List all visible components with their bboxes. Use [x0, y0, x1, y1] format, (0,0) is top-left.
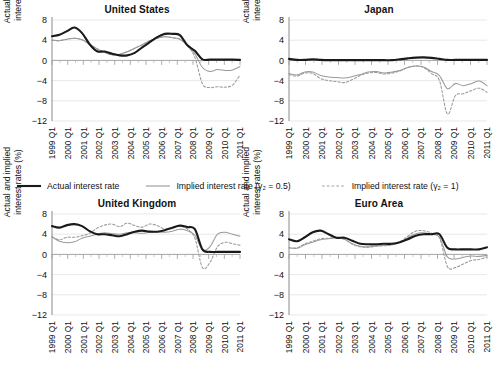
x-tick-label: 2008 Q1 — [188, 321, 198, 353]
x-tick-label: 2009 Q1 — [204, 127, 214, 159]
x-tick-label: 2004 Q1 — [367, 127, 377, 159]
legend-label: Actual interest rate — [47, 181, 119, 191]
series-line — [52, 224, 240, 252]
x-tick-label: 2009 Q1 — [449, 321, 459, 353]
x-tick-label: 2007 Q1 — [173, 127, 183, 159]
x-tick-label: 2010 Q1 — [220, 127, 230, 159]
y-tick-label: 0 — [279, 250, 284, 260]
y-tick-label: 8 — [42, 209, 47, 219]
panel-united-states: United States Actual and implied interes… — [0, 0, 246, 172]
x-tick-label: 2005 Q1 — [141, 127, 151, 159]
legend-swatch-solid-gray — [145, 182, 171, 190]
x-tick-label: 2010 Q1 — [220, 321, 230, 353]
y-tick-label: −4 — [37, 270, 47, 280]
x-tick-label: 2007 Q1 — [173, 321, 183, 353]
x-tick-label: 2005 Q1 — [383, 321, 393, 353]
x-tick-label: 2003 Q1 — [110, 321, 120, 353]
y-tick-label: 8 — [42, 15, 47, 25]
y-tick-label: 8 — [279, 15, 284, 25]
x-tick-label: 2003 Q1 — [350, 127, 360, 159]
legend-label: Implied interest rate (γ₂ = 1) — [352, 181, 459, 191]
y-tick-label: 0 — [279, 56, 284, 66]
x-tick-label: 2002 Q1 — [334, 127, 344, 159]
x-tick-label: 2000 Q1 — [301, 127, 311, 159]
y-tick-label: −12 — [32, 310, 47, 320]
x-tick-label: 2000 Q1 — [63, 127, 73, 159]
series-line — [52, 28, 240, 61]
x-tick-label: 2010 Q1 — [466, 321, 476, 353]
y-tick-label: −4 — [274, 76, 284, 86]
legend-item-actual: Actual interest rate — [16, 181, 119, 191]
x-tick-label: 2008 Q1 — [188, 127, 198, 159]
plot-united-states: 840−4−8−121999 Q12000 Q12001 Q12002 Q120… — [0, 0, 246, 172]
x-tick-label: 2008 Q1 — [433, 321, 443, 353]
y-tick-label: 4 — [42, 229, 47, 239]
x-tick-label: 2004 Q1 — [367, 321, 377, 353]
x-tick-label: 2003 Q1 — [350, 321, 360, 353]
y-tick-label: 4 — [279, 35, 284, 45]
figure-panel-grid: United States Actual and implied interes… — [0, 0, 493, 366]
x-tick-label: 2001 Q1 — [79, 127, 89, 159]
x-tick-label: 2000 Q1 — [301, 321, 311, 353]
y-tick-label: 0 — [42, 56, 47, 66]
x-tick-label: 2003 Q1 — [110, 127, 120, 159]
y-tick-label: −12 — [269, 310, 284, 320]
y-tick-label: 4 — [279, 229, 284, 239]
y-tick-label: 8 — [279, 209, 284, 219]
x-tick-label: 1999 Q1 — [47, 127, 57, 159]
chart-legend: Actual interest rate Implied interest ra… — [0, 178, 493, 194]
legend-item-implied-half: Implied interest rate (γ₂ = 0.5) — [145, 181, 290, 191]
y-tick-label: −4 — [274, 270, 284, 280]
y-tick-label: −8 — [37, 96, 47, 106]
x-tick-label: 2007 Q1 — [416, 321, 426, 353]
panel-japan: Japan Actual and implied interest rates … — [247, 0, 493, 172]
plot-united-kingdom: 840−4−8−121999 Q12000 Q12001 Q12002 Q120… — [0, 194, 246, 366]
series-line — [289, 57, 487, 60]
x-tick-label: 2001 Q1 — [79, 321, 89, 353]
x-tick-label: 2006 Q1 — [400, 127, 410, 159]
x-tick-label: 2011 Q1 — [235, 321, 245, 353]
x-tick-label: 2002 Q1 — [334, 321, 344, 353]
plot-japan: 840−4−8−121999 Q12000 Q12001 Q12002 Q120… — [247, 0, 493, 172]
x-tick-label: 2011 Q1 — [482, 321, 492, 353]
x-tick-label: 2006 Q1 — [157, 127, 167, 159]
legend-item-implied-one: Implied interest rate (γ₂ = 1) — [321, 181, 459, 191]
x-tick-label: 2004 Q1 — [126, 127, 136, 159]
x-tick-label: 1999 Q1 — [47, 321, 57, 353]
x-tick-label: 2005 Q1 — [141, 321, 151, 353]
y-tick-label: −12 — [269, 116, 284, 126]
x-tick-label: 2009 Q1 — [204, 321, 214, 353]
y-tick-label: 4 — [42, 35, 47, 45]
y-tick-label: −8 — [274, 96, 284, 106]
y-tick-label: −12 — [32, 116, 47, 126]
x-tick-label: 2005 Q1 — [383, 127, 393, 159]
x-tick-label: 2006 Q1 — [400, 321, 410, 353]
y-tick-label: −4 — [37, 76, 47, 86]
x-tick-label: 2006 Q1 — [157, 321, 167, 353]
plot-euro-area: 840−4−8−121999 Q12000 Q12001 Q12002 Q120… — [247, 194, 493, 366]
legend-label: Implied interest rate (γ₂ = 0.5) — [176, 181, 290, 191]
x-tick-label: 2001 Q1 — [317, 127, 327, 159]
x-tick-label: 2007 Q1 — [416, 127, 426, 159]
x-tick-label: 1999 Q1 — [284, 127, 294, 159]
x-tick-label: 2008 Q1 — [433, 127, 443, 159]
x-tick-label: 2011 Q1 — [482, 127, 492, 159]
panel-euro-area: Euro Area Actual and implied interest ra… — [247, 194, 493, 366]
x-tick-label: 2004 Q1 — [126, 321, 136, 353]
y-tick-label: 0 — [42, 250, 47, 260]
series-line — [52, 229, 240, 250]
series-line — [52, 37, 240, 72]
x-tick-label: 2001 Q1 — [317, 321, 327, 353]
legend-swatch-solid-black — [16, 182, 42, 190]
y-tick-label: −8 — [37, 290, 47, 300]
x-tick-label: 2002 Q1 — [94, 127, 104, 159]
x-tick-label: 2009 Q1 — [449, 127, 459, 159]
series-line — [52, 223, 240, 269]
x-tick-label: 2000 Q1 — [63, 321, 73, 353]
x-tick-label: 1999 Q1 — [284, 321, 294, 353]
x-tick-label: 2002 Q1 — [94, 321, 104, 353]
panel-united-kingdom: United Kingdom Actual and implied intere… — [0, 194, 246, 366]
x-tick-label: 2010 Q1 — [466, 127, 476, 159]
legend-swatch-dashed-gray — [321, 182, 347, 190]
y-tick-label: −8 — [274, 290, 284, 300]
